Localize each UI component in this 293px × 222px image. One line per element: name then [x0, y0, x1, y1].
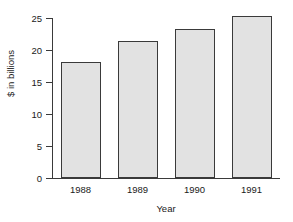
- y-tick-label: 5: [20, 141, 42, 152]
- y-tick-mark: [46, 82, 52, 83]
- y-tick-label: 0: [20, 173, 42, 184]
- bar-1991: [232, 16, 272, 178]
- y-axis-line: [52, 18, 53, 179]
- x-tick-label-1991: 1991: [227, 184, 277, 195]
- bar-1990: [175, 29, 215, 178]
- y-tick-label: 15: [20, 77, 42, 88]
- y-tick-mark: [46, 146, 52, 147]
- x-axis-title: Year: [52, 203, 280, 214]
- x-tick-label-1988: 1988: [56, 184, 106, 195]
- x-tick-label-1990: 1990: [170, 184, 220, 195]
- y-tick-mark: [46, 114, 52, 115]
- y-tick-mark: [46, 18, 52, 19]
- y-axis-title: $ in billions: [5, 34, 16, 114]
- x-tick-label-1989: 1989: [113, 184, 163, 195]
- bar-1989: [118, 41, 158, 178]
- bar-1988: [61, 62, 101, 178]
- y-tick-label: 10: [20, 109, 42, 120]
- x-axis-line: [52, 178, 280, 179]
- y-tick-mark: [46, 178, 52, 179]
- bar-chart: $ in billions 0510152025 198819891990199…: [0, 0, 293, 222]
- y-tick-mark: [46, 50, 52, 51]
- y-tick-label: 20: [20, 45, 42, 56]
- y-tick-label: 25: [20, 13, 42, 24]
